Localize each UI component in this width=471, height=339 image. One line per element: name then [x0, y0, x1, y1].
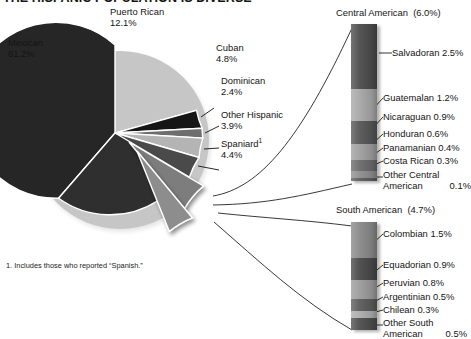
- ca-label-panamanian: Panamanian 0.4%: [383, 143, 460, 154]
- central-american-segment-nicaraguan[interactable]: [351, 121, 377, 145]
- central-american-segment-other-central-american[interactable]: [351, 178, 377, 181]
- ca-label-salvadoran-name: Salvadoran: [392, 47, 439, 58]
- south-american-segment-peruvian[interactable]: [351, 280, 377, 299]
- central-american-segment-guatemalan[interactable]: [351, 89, 377, 120]
- pie-label-mexican-value: 61.2%: [8, 48, 35, 59]
- pie-label-dominican: Dominican 2.4%: [221, 76, 265, 97]
- sa-label-other-south-value: 0.5%: [446, 328, 467, 339]
- pie-label-cuban-value: 4.8%: [216, 53, 237, 64]
- sa-label-colombian-value: 1.5%: [430, 228, 451, 239]
- sa-label-other-south-name: Other South American: [383, 318, 443, 339]
- south-american-segment-colombian[interactable]: [351, 222, 377, 258]
- pie-label-cuban-name: Cuban: [216, 42, 244, 53]
- sa-label-colombian: Colombian 1.5%: [383, 229, 452, 240]
- chart-canvas: THE HISPANIC POPULATION IS DIVERSE: [0, 0, 471, 339]
- central-american-heading-value: (6.0%): [413, 7, 441, 18]
- sa-label-peruvian-name: Peruvian: [383, 277, 420, 288]
- ca-label-salvadoran: Salvadoran 2.5%: [392, 48, 463, 59]
- south-american-segment-equadorian[interactable]: [351, 258, 377, 280]
- south-american-heading-name: South American: [336, 204, 402, 215]
- sa-label-argentinian: Argentinian 0.5%: [383, 292, 454, 303]
- ca-label-nicaraguan: Nicaraguan 0.9%: [383, 112, 455, 123]
- sa-label-colombian-name: Colombian: [383, 228, 428, 239]
- footnote-marker: 1: [259, 137, 263, 144]
- ca-label-nicaraguan-value: 0.9%: [434, 111, 455, 122]
- pie-label-dominican-value: 2.4%: [221, 86, 242, 97]
- ca-label-panamanian-name: Panamanian: [383, 142, 436, 153]
- pie-label-spaniard-value: 4.4%: [221, 149, 242, 160]
- ca-label-guatemalan-value: 1.2%: [437, 92, 458, 103]
- pie-label-other-hispanic-name: Other Hispanic: [221, 109, 283, 120]
- south-american-bar[interactable]: [351, 222, 377, 330]
- sa-label-equadorian: Equadorian 0.9%: [383, 260, 455, 271]
- pie-label-cuban: Cuban 4.8%: [216, 43, 244, 64]
- central-american-bar[interactable]: [351, 24, 377, 181]
- sa-label-equadorian-value: 0.9%: [434, 259, 455, 270]
- south-american-heading: South American (4.7%): [336, 205, 435, 216]
- sa-label-other-south: Other South American 0.5%: [383, 318, 467, 339]
- ca-label-costa-rican: Costa Rican 0.3%: [383, 156, 458, 167]
- pie-label-other-hispanic: Other Hispanic 3.9%: [221, 110, 283, 131]
- central-american-segment-honduran[interactable]: [351, 144, 377, 160]
- pie-label-puerto-rican-name: Puerto Rican: [110, 6, 164, 17]
- pie-label-dominican-name: Dominican: [221, 75, 265, 86]
- south-american-heading-value: (4.7%): [407, 204, 435, 215]
- ca-label-salvadoran-value: 2.5%: [442, 47, 463, 58]
- south-american-segment-chilean[interactable]: [351, 311, 377, 318]
- pie-label-spaniard-name: Spaniard: [221, 138, 259, 149]
- central-american-heading-name: Central American: [336, 7, 408, 18]
- sa-label-argentinian-value: 0.5%: [433, 291, 454, 302]
- ca-label-guatemalan: Guatemalan 1.2%: [383, 93, 458, 104]
- central-american-segment-panamanian[interactable]: [351, 160, 377, 170]
- ca-label-honduran-value: 0.6%: [427, 128, 448, 139]
- footnote: 1. Includes those who reported “Spanish.…: [6, 261, 143, 270]
- ca-label-other-central: Other Central American 0.1%: [383, 170, 471, 191]
- sa-label-peruvian: Peruvian 0.8%: [383, 278, 444, 289]
- sa-label-chilean-name: Chilean: [383, 304, 415, 315]
- sa-label-chilean-value: 0.3%: [417, 304, 438, 315]
- pie-label-other-hispanic-value: 3.9%: [221, 120, 242, 131]
- connector-south-american: [218, 213, 352, 226]
- pie-label-mexican: Mexican 61.2%: [8, 38, 43, 59]
- ca-label-guatemalan-name: Guatemalan: [383, 92, 434, 103]
- connector-south-american-lower: [214, 222, 352, 330]
- pie-label-puerto-rican: Puerto Rican 12.1%: [110, 7, 164, 28]
- connector-central-american-lower: [213, 184, 352, 205]
- pie-label-mexican-name: Mexican: [8, 37, 43, 48]
- pie-label-puerto-rican-value: 12.1%: [110, 17, 137, 28]
- ca-label-other-central-value: 0.1%: [450, 180, 471, 191]
- central-american-segment-salvadoran[interactable]: [351, 24, 377, 89]
- sa-label-equadorian-name: Equadorian: [383, 259, 431, 270]
- ca-label-honduran: Honduran 0.6%: [383, 129, 448, 140]
- pie-label-spaniard: Spaniard1 4.4%: [221, 139, 262, 160]
- ca-label-costa-rican-value: 0.3%: [437, 155, 458, 166]
- sa-label-argentinian-name: Argentinian: [383, 291, 430, 302]
- ca-label-costa-rican-name: Costa Rican: [383, 155, 434, 166]
- south-american-segment-other-south-american[interactable]: [351, 318, 377, 330]
- ca-label-honduran-name: Honduran: [383, 128, 424, 139]
- ca-label-other-central-name: Other Central American: [383, 170, 447, 191]
- sa-label-peruvian-value: 0.8%: [423, 277, 444, 288]
- ca-label-nicaraguan-name: Nicaraguan: [383, 111, 431, 122]
- central-american-segment-costa-rican[interactable]: [351, 171, 377, 179]
- sa-label-chilean: Chilean 0.3%: [383, 305, 439, 316]
- ca-label-panamanian-value: 0.4%: [438, 142, 459, 153]
- central-american-heading: Central American (6.0%): [336, 8, 441, 19]
- south-american-segment-argentinian[interactable]: [351, 299, 377, 311]
